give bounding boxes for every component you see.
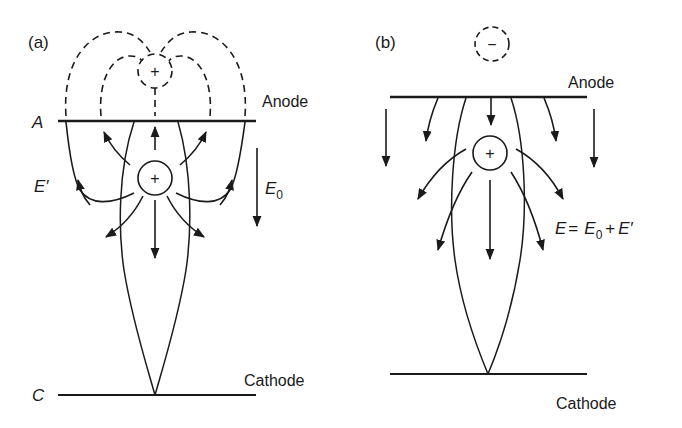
cathode-symbol-a: C xyxy=(32,386,45,405)
real-charge-sign-b: + xyxy=(485,145,494,162)
applied-field-label-a: E0 xyxy=(265,179,283,202)
anode-symbol-a: A xyxy=(31,113,43,132)
streamer-channel-a xyxy=(120,122,190,395)
image-charge-sign-a: + xyxy=(150,63,159,80)
space-charge-field-lines-a xyxy=(66,122,245,258)
panel-a: (a) + A Anode + xyxy=(28,32,308,405)
cathode-label-a: Cathode xyxy=(244,372,305,389)
streamer-field-diagram: (a) + A Anode + xyxy=(0,0,682,428)
resultant-field-equation-b: E=E0+E′ xyxy=(555,219,634,242)
panel-a-label: (a) xyxy=(28,33,49,52)
space-charge-field-label-a: E′ xyxy=(34,177,49,196)
cathode-label-b: Cathode xyxy=(556,395,617,412)
streamer-channel-b xyxy=(452,98,525,374)
real-charge-sign-a: + xyxy=(150,170,159,187)
panel-b: (b) − Anode + E=E0+E′ xyxy=(375,27,634,412)
anode-label-a: Anode xyxy=(262,93,308,110)
anode-label-b: Anode xyxy=(568,74,614,91)
panel-b-label: (b) xyxy=(375,33,396,52)
image-charge-sign-b: − xyxy=(487,36,496,53)
